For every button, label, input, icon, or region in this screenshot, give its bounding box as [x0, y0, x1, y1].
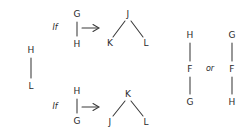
edge-r2-k-l: [131, 101, 143, 116]
arrow-r2-head: [93, 104, 99, 111]
node-r2-rhs-j: J: [104, 118, 116, 127]
node-alt-a-f: F: [184, 65, 196, 74]
diagram-canvas: H L If G H J K L If H G K J L H F G or G…: [0, 0, 251, 136]
edge-r1-j-k: [113, 21, 125, 37]
node-alt-b-g: G: [226, 31, 238, 40]
arrow-r1-head: [93, 25, 99, 32]
node-r1-rhs-k: K: [104, 39, 116, 48]
rule-1-keyword: If: [52, 24, 57, 32]
node-r1-lhs-g: G: [71, 10, 83, 19]
node-r1-lhs-h: H: [71, 40, 83, 49]
node-r2-lhs-h: H: [71, 87, 83, 96]
node-left-l: L: [25, 82, 37, 91]
node-alt-b-f: F: [226, 65, 238, 74]
edge-r2-k-j: [113, 101, 125, 116]
node-r2-lhs-g: G: [71, 117, 83, 126]
edge-r1-j-l: [131, 21, 143, 37]
node-r2-rhs-l: L: [140, 118, 152, 127]
node-alt-a-h: H: [184, 31, 196, 40]
node-alt-a-g: G: [184, 98, 196, 107]
node-alt-b-h: H: [226, 98, 238, 107]
node-left-h: H: [25, 46, 37, 55]
node-r1-rhs-l: L: [140, 39, 152, 48]
node-r1-rhs-j: J: [122, 10, 134, 19]
node-r2-rhs-k: K: [122, 90, 134, 99]
alternatives-connector: or: [206, 65, 214, 73]
rule-2-keyword: If: [52, 103, 57, 111]
